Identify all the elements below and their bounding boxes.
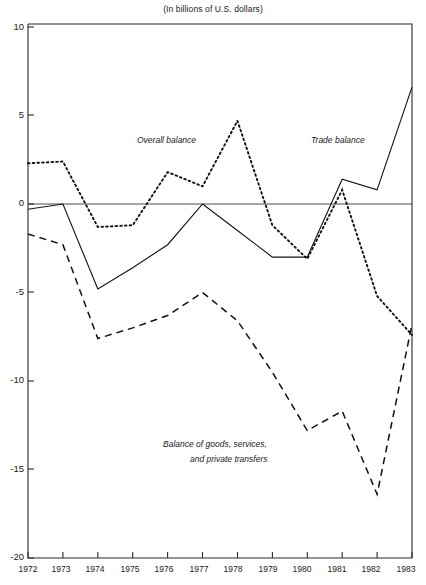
x-axis-ticks bbox=[28, 552, 412, 558]
y-axis-ticks bbox=[28, 27, 34, 558]
plot-frame bbox=[28, 24, 412, 558]
chart-plot-area bbox=[0, 0, 426, 585]
series-line-trade-balance bbox=[28, 87, 412, 289]
series-line-goods-services-transfers bbox=[28, 234, 412, 494]
series-line-overall-balance bbox=[28, 121, 412, 335]
chart-page: (In billions of U.S. dollars) 10 5 0 -5 … bbox=[0, 0, 426, 585]
